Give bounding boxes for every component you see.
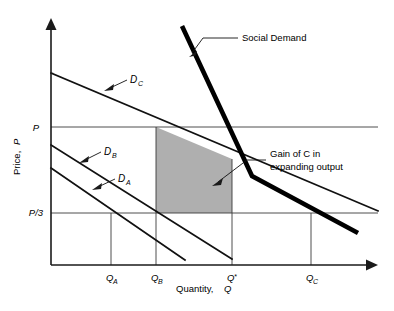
x-axis-arrowhead (366, 260, 378, 271)
y-axis-title-main: Price, (11, 151, 22, 175)
curve-label-dc: D C (130, 74, 144, 87)
gain-of-c-annotation-line-1: Gain of C in (270, 148, 320, 159)
curve-label-da: D A (118, 173, 131, 186)
quantity-tick-qc-sub: C (313, 278, 319, 285)
quantity-tick-qa: Q A (106, 272, 118, 285)
figure-root: Price, P Quantity, Q P P/3 Q A Q B Q * Q… (0, 0, 394, 311)
social-demand-annotation-line-1: Social Demand (242, 32, 306, 43)
db-leader-arrowhead (79, 156, 89, 163)
quantity-tick-qb: Q B (151, 272, 163, 285)
social-demand-diagram: Price, P Quantity, Q P P/3 Q A Q B Q * Q… (0, 0, 394, 311)
price-tick-p: P (33, 122, 40, 133)
x-axis-title-main: Quantity, (176, 283, 213, 294)
quantity-tick-qstar: Q * (227, 272, 237, 283)
y-axis-title-var: P (11, 138, 22, 145)
curve-label-dc-sub: C (138, 80, 144, 87)
curve-label-da-main: D (118, 173, 125, 184)
quantity-tick-qb-sub: B (158, 278, 163, 285)
y-axis-title: Price, P (11, 138, 22, 175)
curve-label-db: D B (104, 146, 117, 159)
curve-label-db-sub: B (112, 152, 117, 159)
price-tick-p-over-3: P/3 (29, 207, 44, 218)
gain-of-c-region (156, 127, 232, 213)
gain-of-c-annotation-line-2: expanding output (270, 161, 343, 172)
social-demand-leader-diagonal (192, 38, 203, 53)
quantity-tick-qstar-sub: * (234, 273, 237, 280)
x-axis-title: Quantity, Q (176, 283, 232, 294)
y-axis-arrowhead (46, 18, 57, 30)
curve-label-da-sub: A (125, 179, 131, 186)
x-axis-title-var: Q (224, 283, 232, 294)
quantity-tick-qa-sub: A (112, 278, 118, 285)
dc-leader-arrowhead (104, 84, 114, 91)
curve-label-db-main: D (104, 146, 111, 157)
da-leader-arrowhead (92, 183, 102, 190)
quantity-tick-qc: Q C (306, 272, 319, 285)
curve-label-dc-main: D (130, 74, 137, 85)
